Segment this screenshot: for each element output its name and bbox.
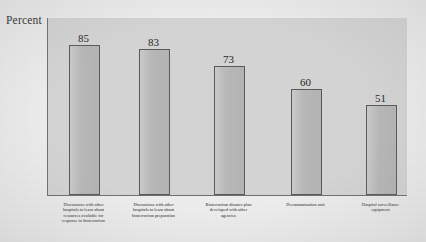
plot-area xyxy=(47,18,407,196)
x-axis-category-line: response to bioterrorism xyxy=(48,218,120,223)
x-axis-category-label: Decontamination unit xyxy=(270,202,342,207)
bar xyxy=(366,105,397,195)
bar-value-label: 83 xyxy=(134,36,174,48)
x-axis-category-line: Decontamination unit xyxy=(270,202,342,207)
x-axis-category-label: Bioterrorism disaster plandeveloped with… xyxy=(193,202,265,218)
bar-value-label: 85 xyxy=(64,32,104,44)
y-axis-label: Percent xyxy=(6,14,42,26)
bar-value-label: 60 xyxy=(286,76,326,88)
bar-value-label: 51 xyxy=(361,92,401,104)
bars-container xyxy=(48,18,407,195)
bar xyxy=(139,49,170,195)
x-axis-category-line: bioterrorism preparation xyxy=(118,213,190,218)
bar xyxy=(69,45,100,195)
x-axis-category-line: equipment xyxy=(345,207,417,212)
x-axis-labels: Discussions with otherhospitals to learn… xyxy=(47,199,407,242)
bar xyxy=(214,66,245,195)
x-axis-category-label: Discussions with otherhospitals to learn… xyxy=(118,202,190,218)
x-axis-category-label: Discussions with otherhospitals to learn… xyxy=(48,202,120,224)
x-axis-category-label: Hospital surveillanceequipment xyxy=(345,202,417,213)
x-axis-category-line: agencies xyxy=(193,213,265,218)
bar-value-label: 73 xyxy=(209,53,249,65)
bar xyxy=(291,89,322,195)
bar-chart-figure: Percent 8583736051 Discussions with othe… xyxy=(0,0,426,242)
